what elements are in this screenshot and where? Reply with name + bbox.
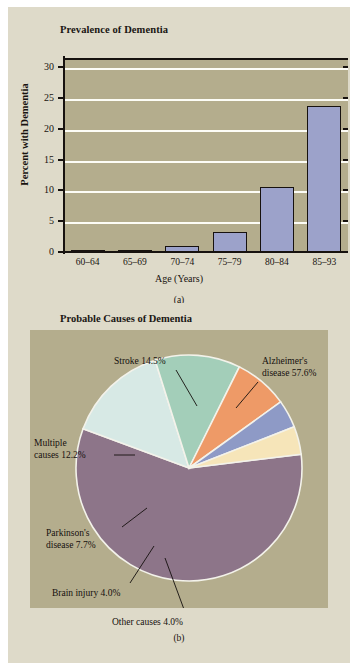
x-tick-label: 75–79 xyxy=(206,257,253,267)
bar-chart-title: Prevalence of Dementia xyxy=(60,24,168,35)
gridline xyxy=(64,161,348,163)
x-tick-label: 80–84 xyxy=(253,257,300,267)
gridline xyxy=(64,222,348,224)
y-tick-mark xyxy=(58,159,63,161)
bar xyxy=(260,187,294,252)
bar xyxy=(307,106,341,252)
y-tick-label: 25 xyxy=(28,92,54,103)
pie-slice-label: Parkinson'sdisease 7.7% xyxy=(46,528,96,551)
pie-slice-label-line2: disease 57.6% xyxy=(262,368,316,380)
x-tick-label: 65–69 xyxy=(111,257,158,267)
bar-x-axis-title: Age (Years) xyxy=(8,273,350,284)
y-tick-label: 15 xyxy=(28,154,54,165)
gridline xyxy=(64,68,348,70)
y-tick-label: 0 xyxy=(28,246,54,257)
gridline xyxy=(64,191,348,193)
pie-slice-label: Stroke 14.5% xyxy=(114,356,166,368)
pie-slice-label-line2: causes 12.2% xyxy=(34,450,86,462)
panel-a-bar-chart: Prevalence of Dementia Percent with Deme… xyxy=(8,7,350,303)
pie-slice-label-line1: Brain injury 4.0% xyxy=(52,588,120,600)
x-tick-label: 85–93 xyxy=(301,257,348,267)
pie-slice-label-line1: Alzheimer's xyxy=(262,356,316,368)
pie-slice-label: Other causes 4.0% xyxy=(112,617,183,629)
bar-plot-area xyxy=(64,58,348,252)
y-tick-mark xyxy=(58,189,63,191)
pie-slice-label-line1: Multiple xyxy=(34,438,86,450)
panel-b-caption: (b) xyxy=(8,633,350,643)
pie-chart-title: Probable Causes of Dementia xyxy=(60,313,192,324)
pie-slice-label-line1: Other causes 4.0% xyxy=(112,617,183,629)
bar xyxy=(213,232,247,252)
y-tick-mark-right xyxy=(343,128,348,130)
y-tick-mark xyxy=(58,66,63,68)
bar-y-axis-line xyxy=(63,56,66,254)
y-tick-mark-right xyxy=(343,251,348,253)
x-tick-label: 70–74 xyxy=(159,257,206,267)
y-tick-mark-right xyxy=(343,159,348,161)
page-footnote xyxy=(8,664,338,671)
figure-page: Prevalence of Dementia Percent with Deme… xyxy=(0,0,358,671)
y-tick-mark-right xyxy=(343,97,348,99)
gridline xyxy=(64,130,348,132)
y-tick-mark-right xyxy=(343,189,348,191)
y-tick-mark xyxy=(58,251,63,253)
x-tick-label: 60–64 xyxy=(64,257,111,267)
y-tick-mark-right xyxy=(343,66,348,68)
y-tick-label: 10 xyxy=(28,184,54,195)
y-tick-mark xyxy=(58,97,63,99)
gridline xyxy=(64,99,348,101)
pie-slice-label: Alzheimer'sdisease 57.6% xyxy=(262,356,316,379)
pie-slice-label-line2: disease 7.7% xyxy=(46,540,96,552)
pie-slice-label: Multiplecauses 12.2% xyxy=(34,438,86,461)
y-tick-label: 20 xyxy=(28,123,54,134)
pie-slice-label: Brain injury 4.0% xyxy=(52,588,120,600)
pie-slice-label-line1: Parkinson's xyxy=(46,528,96,540)
panel-b-pie-chart: Probable Causes of Dementia (b) Alzheime… xyxy=(8,303,350,663)
y-tick-label: 30 xyxy=(28,61,54,72)
y-tick-mark xyxy=(58,128,63,130)
y-tick-label: 5 xyxy=(28,215,54,226)
y-tick-mark-right xyxy=(343,220,348,222)
y-tick-mark xyxy=(58,220,63,222)
pie-slice-label-line1: Stroke 14.5% xyxy=(114,356,166,368)
bar-x-axis-line xyxy=(63,251,348,253)
